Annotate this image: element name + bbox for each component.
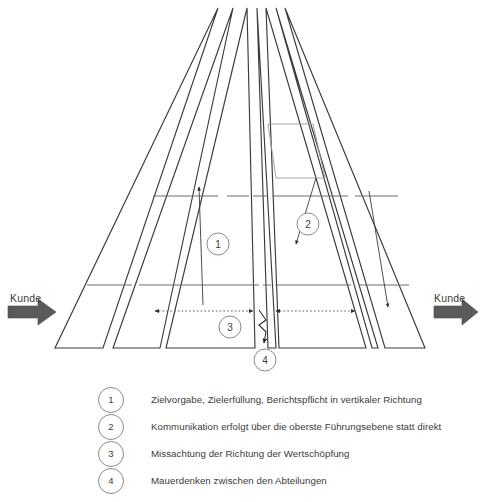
legend-text-2: Kommunikation erfolgt über die oberste F…	[151, 421, 441, 432]
diagram-marker-2: 2	[297, 213, 319, 235]
arrow-wall-blocked	[259, 310, 266, 343]
legend-item: 2 Kommunikation erfolgt über die oberste…	[98, 413, 480, 440]
kunde-left-label: Kunde	[10, 292, 41, 304]
legend-text-1: Zielvorgabe, Zielerfüllung, Berichtspfli…	[151, 394, 422, 405]
pillar-2	[113, 8, 255, 348]
diagram-marker-3: 3	[219, 316, 241, 338]
marker-1-label: 1	[215, 239, 221, 250]
legend: 1 Zielvorgabe, Zielerfüllung, Berichtspf…	[98, 386, 480, 494]
diagram-marker-1: 1	[207, 233, 229, 255]
legend-marker-1: 1	[98, 387, 124, 413]
kunde-right-label: Kunde	[434, 292, 465, 304]
legend-marker-3: 3	[98, 441, 124, 467]
legend-item: 4 Mauerdenken zwischen den Abteilungen	[98, 467, 480, 494]
marker-3-label: 3	[227, 322, 233, 333]
marker-4-label: 4	[262, 355, 268, 366]
diagram-marker-4: 4	[254, 349, 276, 371]
legend-item: 3 Missachtung der Richtung der Wertschöp…	[98, 440, 480, 467]
legend-item: 1 Zielvorgabe, Zielerfüllung, Berichtspf…	[98, 386, 480, 413]
legend-text-4: Mauerdenken zwischen den Abteilungen	[151, 475, 327, 486]
legend-text-3: Missachtung der Richtung der Wertschöpfu…	[151, 448, 349, 459]
marker-2-label: 2	[305, 219, 311, 230]
legend-marker-2: 2	[98, 414, 124, 440]
legend-marker-4: 4	[98, 468, 124, 494]
